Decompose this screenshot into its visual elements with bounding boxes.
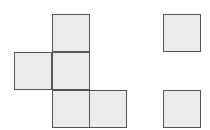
square-net-bottom-center: [52, 90, 90, 128]
square-net-middle-center: [52, 52, 90, 90]
square-net-middle-left: [14, 52, 52, 90]
square-net-bottom-right: [89, 90, 127, 128]
square-net-top: [52, 14, 90, 52]
square-separate-top: [163, 14, 201, 52]
square-separate-bottom: [163, 90, 201, 128]
